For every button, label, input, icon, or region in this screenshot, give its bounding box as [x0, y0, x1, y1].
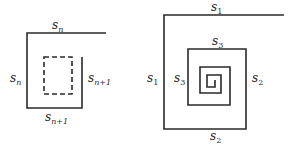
label-right-inner-top: s3: [212, 34, 223, 50]
label-right-right-outer: s2: [252, 71, 263, 87]
square-spiral-path: [164, 15, 284, 129]
right-panel: [164, 15, 284, 129]
spiral-diagram: sn sn sn+1 sn+1 s1 s1 s2 s2 s3 s3: [0, 0, 290, 150]
left-dashed-square: [44, 57, 72, 94]
label-right-left-outer: s1: [147, 71, 158, 87]
label-right-bottom: s2: [210, 129, 221, 145]
label-left-right: sn+1: [88, 71, 111, 87]
label-left-left: sn: [10, 71, 21, 87]
label-left-top: sn: [52, 18, 63, 34]
label-left-bottom: sn+1: [45, 110, 68, 126]
label-right-inner-left: s3: [174, 71, 185, 87]
label-right-top: s1: [211, 0, 222, 16]
